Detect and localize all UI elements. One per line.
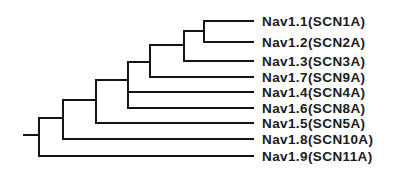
- leaf-labels: Nav1.1(SCN1A)Nav1.2(SCN2A)Nav1.3(SCN3A)N…: [262, 14, 373, 164]
- leaf-label-nav11: Nav1.1(SCN1A): [262, 14, 365, 29]
- leaf-label-nav12: Nav1.2(SCN2A): [262, 35, 365, 50]
- tree-branches: [24, 21, 253, 156]
- leaf-label-nav14: Nav1.4(SCN4A): [262, 85, 365, 100]
- leaf-label-nav13: Nav1.3(SCN3A): [262, 54, 365, 69]
- leaf-label-nav18: Nav1.8(SCN10A): [262, 132, 373, 147]
- leaf-label-nav17: Nav1.7(SCN9A): [262, 70, 365, 85]
- leaf-label-nav15: Nav1.5(SCN5A): [262, 116, 365, 131]
- phylogenetic-tree: Nav1.1(SCN1A)Nav1.2(SCN2A)Nav1.3(SCN3A)N…: [0, 0, 396, 178]
- leaf-label-nav19: Nav1.9(SCN11A): [262, 149, 373, 164]
- leaf-label-nav16: Nav1.6(SCN8A): [262, 101, 365, 116]
